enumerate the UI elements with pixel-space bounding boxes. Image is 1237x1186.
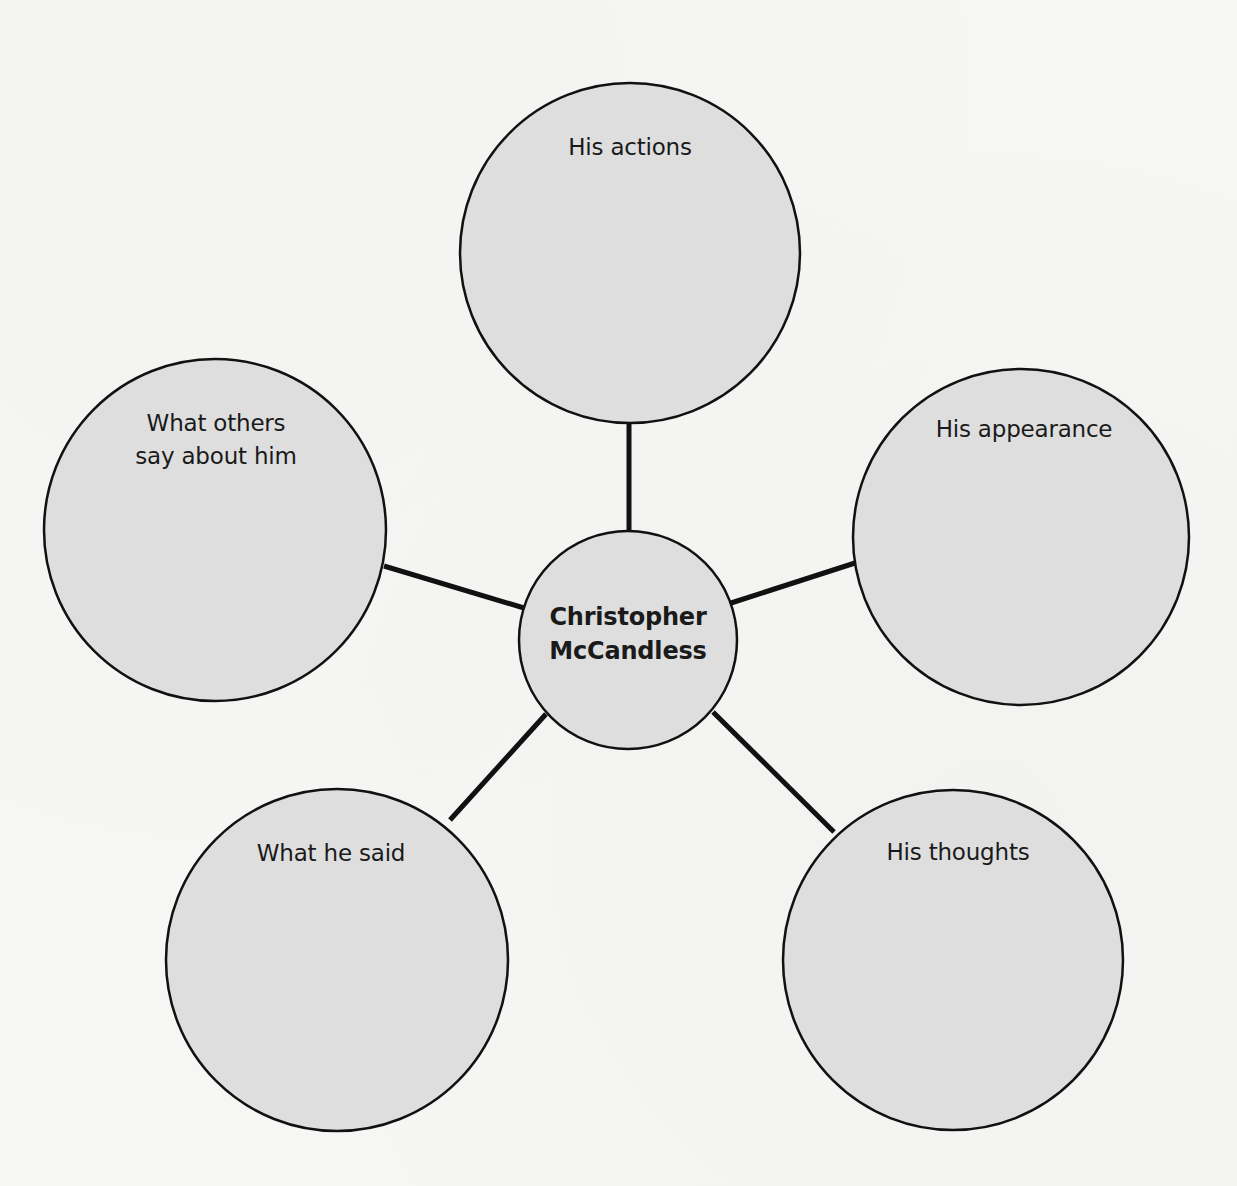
connector-thoughts [713,712,834,832]
label-center-line2: McCandless [549,634,706,668]
label-center: Christopher McCandless [549,600,706,668]
concept-web-diagram [0,0,1237,1186]
label-appearance-text: His appearance [936,413,1113,446]
label-center-line1: Christopher [549,600,706,634]
label-thoughts-text: His thoughts [886,836,1029,869]
connector-others [384,566,524,608]
label-said-text: What he said [257,837,405,870]
label-appearance: His appearance [936,413,1113,446]
label-said: What he said [257,837,405,870]
connector-said [450,714,546,820]
label-others-line2: say about him [135,440,296,473]
connector-appearance [731,563,855,603]
label-others: What others say about him [135,407,296,473]
worksheet-page: His actions His appearance His thoughts … [0,0,1237,1186]
label-thoughts: His thoughts [886,836,1029,869]
label-actions: His actions [568,131,692,164]
label-others-line1: What others [135,407,296,440]
label-actions-text: His actions [568,131,692,164]
